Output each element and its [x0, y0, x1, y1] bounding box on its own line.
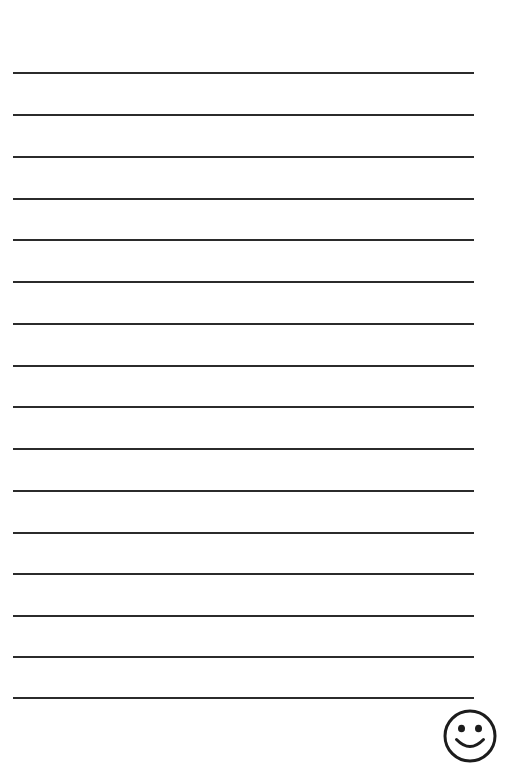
ruled-line	[13, 615, 474, 617]
smiley-right-eye	[475, 725, 482, 733]
smiley-face-icon	[442, 708, 498, 763]
ruled-line	[13, 198, 474, 200]
ruled-line	[13, 697, 474, 699]
ruled-line	[13, 72, 474, 74]
ruled-line	[13, 448, 474, 450]
ruled-line	[13, 573, 474, 575]
ruled-line	[13, 406, 474, 408]
ruled-line	[13, 323, 474, 325]
smiley-face-outline	[445, 711, 495, 761]
ruled-line	[13, 656, 474, 658]
ruled-line	[13, 365, 474, 367]
smiley-left-eye	[458, 725, 465, 733]
ruled-line	[13, 281, 474, 283]
ruled-line	[13, 114, 474, 116]
ruled-line	[13, 239, 474, 241]
ruled-line	[13, 156, 474, 158]
notepad-page	[0, 0, 505, 763]
ruled-line	[13, 490, 474, 492]
ruled-writing-area[interactable]	[0, 0, 505, 763]
ruled-line	[13, 532, 474, 534]
